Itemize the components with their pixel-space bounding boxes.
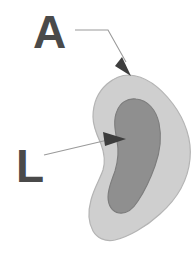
label-l: L bbox=[16, 140, 44, 192]
anatomical-section-figure: A L bbox=[0, 0, 196, 257]
label-a: A bbox=[33, 6, 66, 58]
figure-root: A L bbox=[0, 0, 196, 257]
